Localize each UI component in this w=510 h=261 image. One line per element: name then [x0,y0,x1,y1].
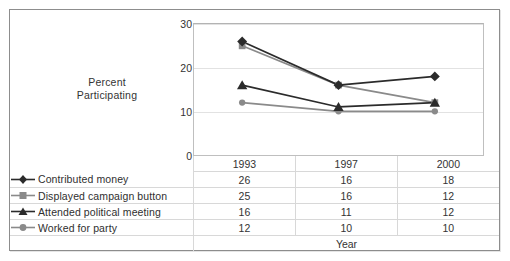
cell-worked-for-party-1993: 12 [194,220,296,236]
header-year-2000: 2000 [397,156,499,172]
y-tick-30: 30 [160,18,192,30]
square-marker-icon [10,189,36,202]
legend-label: Worked for party [38,222,117,234]
diamond-marker-icon [10,173,36,186]
chart-plot-area-wrapper: Percent Participating 30 20 10 0 [10,10,499,158]
table-row: Worked for party 12 10 10 [10,220,499,236]
y-axis-title: Percent Participating [48,76,166,102]
legend-item-contributed-money: Contributed money [10,172,194,188]
cell-worked-for-party-1997: 10 [295,220,397,236]
y-tick-20: 20 [160,62,192,74]
data-table: 1993 1997 2000 Contri [10,156,499,251]
legend-item-displayed-campaign-button: Displayed campaign button [10,188,194,204]
chart-frame: Percent Participating 30 20 10 0 1993 19… [9,9,500,251]
header-year-1993: 1993 [194,156,296,172]
triangle-marker-icon [10,205,36,218]
y-axis-title-line2: Participating [48,89,166,102]
legend-item-attended-political-meeting: Attended political meeting [10,204,194,220]
header-year-1997: 1997 [295,156,397,172]
legend-label: Attended political meeting [38,206,161,218]
table-header-row: 1993 1997 2000 [10,156,499,172]
plot-area [193,23,484,156]
table-row: Contributed money 26 16 18 [10,172,499,188]
cell-attended-political-meeting-1993: 16 [194,204,296,220]
x-axis-title-row: Year [10,236,499,252]
cell-displayed-campaign-button-2000: 12 [397,188,499,204]
y-tick-10: 10 [160,106,192,118]
legend-label: Contributed money [38,173,128,185]
y-axis-title-line1: Percent [48,76,166,89]
y-axis-tick-labels: 30 20 10 0 [160,10,192,158]
data-table-zone: 1993 1997 2000 Contri [10,156,499,250]
x-axis-title-spacer [10,236,194,252]
x-axis-title: Year [194,236,500,252]
cell-contributed-money-1993: 26 [194,172,296,188]
table-row: Attended political meeting 16 11 12 [10,204,499,220]
series-lines-and-markers [194,24,483,155]
cell-attended-political-meeting-1997: 11 [295,204,397,220]
cell-displayed-campaign-button-1997: 16 [295,188,397,204]
header-legend-spacer [10,156,194,172]
legend-item-worked-for-party: Worked for party [10,220,194,236]
cell-attended-political-meeting-2000: 12 [397,204,499,220]
cell-contributed-money-1997: 16 [295,172,397,188]
cell-worked-for-party-2000: 10 [397,220,499,236]
table-row: Displayed campaign button 25 16 12 [10,188,499,204]
legend-label: Displayed campaign button [38,190,167,202]
circle-marker-icon [10,221,36,234]
cell-contributed-money-2000: 18 [397,172,499,188]
cell-displayed-campaign-button-1993: 25 [194,188,296,204]
